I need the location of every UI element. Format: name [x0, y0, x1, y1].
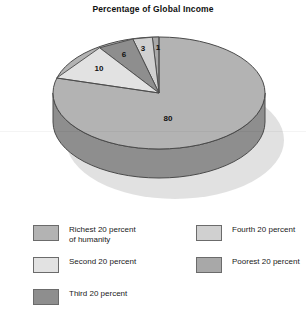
- legend-label-second: Second 20 percent: [69, 256, 136, 267]
- legend-item-fourth[interactable]: Fourth 20 percent: [196, 224, 295, 241]
- scan-artifact-line: [0, 131, 306, 132]
- legend-item-second[interactable]: Second 20 percent: [33, 256, 136, 273]
- chart-title: Percentage of Global Income: [0, 4, 306, 14]
- legend-label-richest: Richest 20 percent of humanity: [69, 224, 136, 244]
- legend-item-richest[interactable]: Richest 20 percent of humanity: [33, 224, 136, 244]
- chart-legend: Richest 20 percent of humanity Second 20…: [0, 222, 306, 321]
- legend-swatch-richest-icon: [33, 225, 59, 241]
- legend-item-poorest[interactable]: Poorest 20 percent: [196, 256, 300, 273]
- legend-swatch-poorest-icon: [196, 257, 222, 273]
- legend-item-third[interactable]: Third 20 percent: [33, 288, 127, 305]
- legend-swatch-fourth-icon: [196, 225, 222, 241]
- legend-label-fourth: Fourth 20 percent: [232, 224, 295, 235]
- legend-swatch-second-icon: [33, 257, 59, 273]
- legend-swatch-third-icon: [33, 289, 59, 305]
- legend-label-third: Third 20 percent: [69, 288, 127, 299]
- pie-plot-area: 80 10 6 3 1: [0, 18, 306, 218]
- legend-label-poorest: Poorest 20 percent: [232, 256, 300, 267]
- pie-chart-figure: Percentage of Global Income: [0, 0, 306, 321]
- pie-graphic: [0, 18, 306, 218]
